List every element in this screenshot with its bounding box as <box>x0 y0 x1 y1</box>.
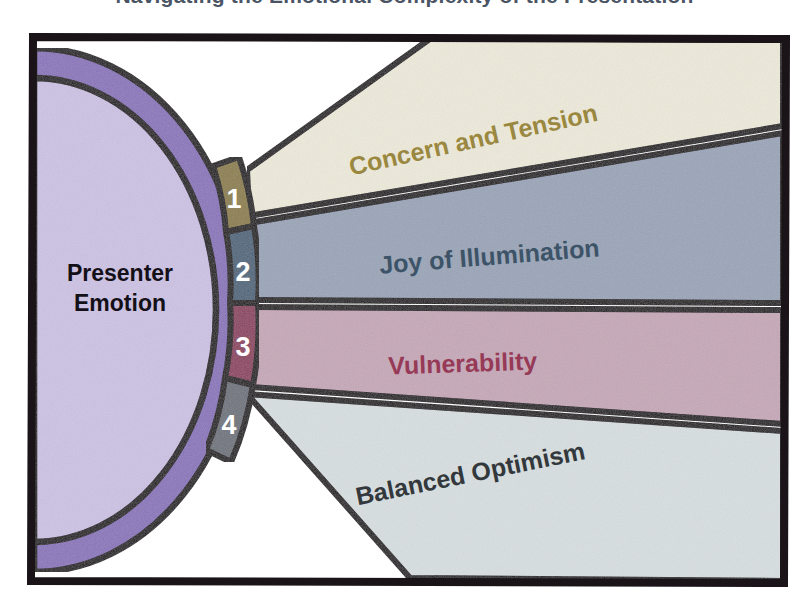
diagram-canvas: Navigating the Emotional Complexity of t… <box>0 0 809 610</box>
segment-1-number: 1 <box>226 184 241 214</box>
hub-label-line2: Emotion <box>74 290 166 316</box>
segment-2-number: 2 <box>235 257 250 287</box>
band-balanced-optimism[interactable] <box>247 394 783 581</box>
segment-4-number: 4 <box>221 410 236 440</box>
hub-label-line1: Presenter <box>67 260 173 286</box>
band-label-vulnerability: Vulnerability <box>388 346 538 379</box>
segment-3-number: 3 <box>235 332 250 362</box>
fan-flow-diagram: 1 2 3 4 Presenter Emotion Concern and Te… <box>0 0 809 610</box>
